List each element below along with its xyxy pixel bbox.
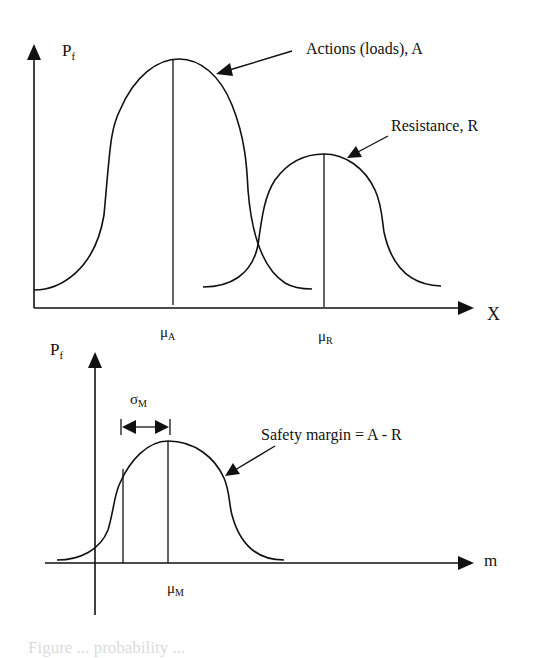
mean-a-label: μA xyxy=(160,324,176,342)
safety-margin-pointer-arrow-icon xyxy=(235,446,275,470)
sigma-label: σM xyxy=(130,391,147,409)
top-y-axis-label: Pf xyxy=(62,41,75,62)
safety-margin-pointer-arrowhead-icon xyxy=(225,463,240,476)
actions-annotation: Actions (loads), A xyxy=(306,40,423,58)
actions-pointer-arrowhead-icon xyxy=(216,63,233,76)
resistance-annotation: Resistance, R xyxy=(391,117,478,134)
mean-r-label: μR xyxy=(318,328,333,346)
bottom-y-axis-arrow-icon xyxy=(88,352,102,368)
top-y-axis-arrow-icon xyxy=(27,44,41,60)
bottom-y-axis-label: Pf xyxy=(50,340,63,361)
top-chart: Pf X μA μR Actions (loads), A Resistance… xyxy=(27,40,500,346)
resistance-pointer-arrow-icon xyxy=(356,136,388,153)
safety-margin-curve xyxy=(57,441,284,560)
resistance-curve xyxy=(203,154,441,287)
top-x-axis-label: X xyxy=(487,304,500,324)
actions-pointer-arrow-icon xyxy=(226,51,292,71)
top-x-axis-arrow-icon xyxy=(458,301,474,315)
bottom-chart: Pf m σM μM Safety margin = A - R xyxy=(45,340,497,615)
mean-m-label: μM xyxy=(167,580,184,598)
bottom-x-axis-label: m xyxy=(484,551,497,570)
resistance-pointer-arrowhead-icon xyxy=(347,146,362,158)
safety-margin-annotation: Safety margin = A - R xyxy=(261,426,402,444)
sigma-double-arrow-icon xyxy=(121,419,170,435)
bottom-x-axis-arrow-icon xyxy=(458,556,474,570)
figure-caption: Figure ... probability ... xyxy=(28,638,185,658)
